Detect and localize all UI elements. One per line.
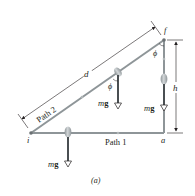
- h-label: h: [173, 83, 178, 93]
- point-a-label: a: [161, 135, 165, 145]
- phi-label-top: ϕ: [153, 49, 157, 58]
- diagram-canvas: d h Path 2 Path 1 i f a ϕ ϕ mg mg: [0, 0, 195, 196]
- ball-path-1: [65, 127, 72, 138]
- svg-text:mg: mg: [144, 103, 155, 113]
- work-path-diagram: d h Path 2 Path 1 i f a ϕ ϕ mg mg: [0, 0, 195, 196]
- weight-label-vertical: mg: [144, 103, 155, 113]
- point-f-dot: [162, 38, 166, 42]
- d-label: d: [84, 69, 89, 79]
- svg-text:mg: mg: [98, 98, 109, 108]
- weight-arrowhead-vertical: [161, 105, 168, 111]
- d-extension-line-right: [151, 21, 161, 35]
- point-i-label: i: [27, 135, 30, 145]
- vertical-midpoint-dot: [163, 58, 166, 61]
- figure-caption: (a): [91, 176, 101, 185]
- weight-label-path-2: mg: [98, 98, 109, 108]
- path-1-midpoint-dot: [117, 132, 120, 135]
- ball-vertical: [161, 74, 168, 85]
- path-1-label: Path 1: [105, 137, 127, 147]
- weight-label-path-1: mg: [48, 159, 59, 169]
- path-2-line: [31, 40, 164, 133]
- point-i-dot: [29, 131, 33, 135]
- weight-arrowhead-path-2: [115, 103, 122, 109]
- point-f-label: f: [164, 25, 168, 35]
- phi-label-path-2: ϕ: [108, 82, 112, 91]
- weight-arrowhead-path-1: [65, 161, 72, 167]
- svg-text:mg: mg: [48, 159, 59, 169]
- path-2-midpoint-dot: [81, 96, 84, 99]
